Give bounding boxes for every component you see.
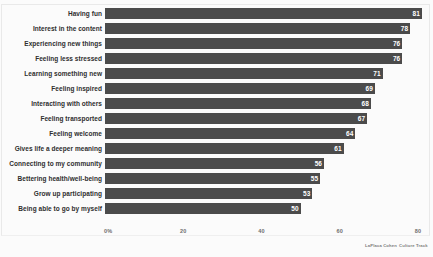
category-label: Feeling transported <box>0 113 102 124</box>
bar-value-label: 68 <box>362 98 369 109</box>
bar-value-label: 76 <box>393 53 400 64</box>
table-row: Being able to go by myself 50 <box>0 202 433 217</box>
credit-secondary: Culture Track <box>399 243 428 248</box>
bar-value-label: 53 <box>303 188 310 199</box>
x-axis-tick: 0% <box>104 228 112 234</box>
bar: 71 <box>105 68 383 79</box>
chart-footer: LaPlaca Cohen Culture Track <box>0 243 433 255</box>
table-row: Experiencing new things 76 <box>0 37 433 52</box>
x-axis-tick: 20 <box>180 228 186 234</box>
table-row: Feeling inspired 69 <box>0 82 433 97</box>
bar: 68 <box>105 98 371 109</box>
bar-track: 55 <box>105 173 431 184</box>
bar-value-label: 50 <box>291 203 298 214</box>
bar: 76 <box>105 38 402 49</box>
bar-rows: Having fun 81 Interest in the content 78… <box>0 7 433 217</box>
category-label: Bettering health/well-being <box>0 173 102 184</box>
x-axis: 0% 20 40 60 80 <box>0 228 433 240</box>
bar: 64 <box>105 128 355 139</box>
bar: 67 <box>105 113 367 124</box>
bar-track: 68 <box>105 98 431 109</box>
category-label: Learning something new <box>0 68 102 79</box>
table-row: Feeling welcome 64 <box>0 127 433 142</box>
bar-track: 53 <box>105 188 431 199</box>
credit-primary: LaPlaca Cohen <box>365 243 397 248</box>
bar-value-label: 76 <box>393 38 400 49</box>
bar-value-label: 64 <box>346 128 353 139</box>
x-axis-tick: 40 <box>258 228 264 234</box>
bar-chart: Having fun 81 Interest in the content 78… <box>0 0 433 257</box>
x-axis-tick: 60 <box>337 228 343 234</box>
table-row: Feeling less stressed 76 <box>0 52 433 67</box>
bar-track: 50 <box>105 203 431 214</box>
table-row: Feeling transported 67 <box>0 112 433 127</box>
bar-value-label: 67 <box>358 113 365 124</box>
bar-value-label: 56 <box>315 158 322 169</box>
bar-value-label: 55 <box>311 173 318 184</box>
category-label: Grow up participating <box>0 188 102 199</box>
bar-track: 61 <box>105 143 431 154</box>
table-row: Gives life a deeper meaning 61 <box>0 142 433 157</box>
bar-track: 71 <box>105 68 431 79</box>
bar-track: 64 <box>105 128 431 139</box>
bar: 56 <box>105 158 324 169</box>
category-label: Interest in the content <box>0 23 102 34</box>
category-label: Connecting to my community <box>0 158 102 169</box>
table-row: Grow up participating 53 <box>0 187 433 202</box>
category-label: Feeling inspired <box>0 83 102 94</box>
bar-track: 76 <box>105 38 431 49</box>
bar-value-label: 81 <box>412 8 419 19</box>
bar-value-label: 69 <box>366 83 373 94</box>
bar: 76 <box>105 53 402 64</box>
category-label: Gives life a deeper meaning <box>0 143 102 154</box>
bar: 53 <box>105 188 312 199</box>
category-label: Being able to go by myself <box>0 203 102 214</box>
bar: 61 <box>105 143 344 154</box>
bar: 69 <box>105 83 375 94</box>
category-label: Feeling less stressed <box>0 53 102 64</box>
bar: 50 <box>105 203 301 214</box>
category-label: Experiencing new things <box>0 38 102 49</box>
bar-track: 56 <box>105 158 431 169</box>
bar-track: 81 <box>105 8 431 19</box>
x-axis-tick: 80 <box>415 228 421 234</box>
table-row: Interacting with others 68 <box>0 97 433 112</box>
bar-track: 76 <box>105 53 431 64</box>
category-label: Interacting with others <box>0 98 102 109</box>
bar-value-label: 71 <box>373 68 380 79</box>
bar-track: 69 <box>105 83 431 94</box>
bar: 78 <box>105 23 410 34</box>
category-label: Having fun <box>0 8 102 19</box>
category-label: Feeling welcome <box>0 128 102 139</box>
table-row: Bettering health/well-being 55 <box>0 172 433 187</box>
table-row: Connecting to my community 56 <box>0 157 433 172</box>
table-row: Learning something new 71 <box>0 67 433 82</box>
table-row: Having fun 81 <box>0 7 433 22</box>
bar-value-label: 78 <box>401 23 408 34</box>
bar-track: 67 <box>105 113 431 124</box>
bar-value-label: 61 <box>334 143 341 154</box>
bar-track: 78 <box>105 23 431 34</box>
bar: 81 <box>105 8 422 19</box>
bar: 55 <box>105 173 320 184</box>
table-row: Interest in the content 78 <box>0 22 433 37</box>
